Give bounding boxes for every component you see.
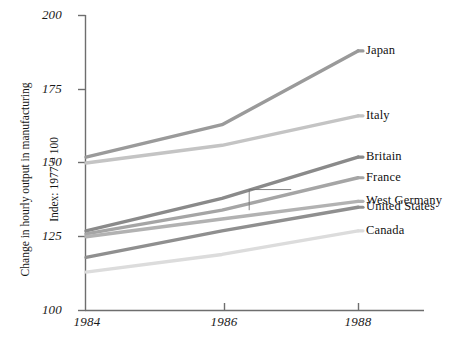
series-label-canada: Canada (366, 223, 404, 238)
y-axis-title: Change in hourly output in manufacturing… (3, 59, 62, 299)
series-layer (86, 51, 358, 272)
y-tick-label-100: 100 (22, 302, 62, 318)
x-tick-label-1984: 1984 (57, 314, 117, 330)
x-axis-ticks (225, 303, 359, 311)
series-line-canada (86, 231, 358, 272)
series-label-united-states: United States (366, 199, 435, 214)
y-axis-title-line2: Index: 1977 = 100 (48, 137, 60, 222)
leader-lines-layer (358, 51, 363, 231)
y-axis-title-line1: Change in hourly output in manufacturing (18, 83, 30, 277)
series-label-italy: Italy (366, 108, 390, 123)
x-tick-label-1986: 1986 (194, 314, 254, 330)
y-tick-label-200: 200 (22, 7, 62, 23)
line-chart: 200 175 150 125 100 1984 1986 1988 Chang… (0, 0, 450, 344)
series-line-japan (86, 51, 358, 157)
series-label-japan: Japan (366, 43, 395, 58)
series-label-france: France (366, 170, 401, 185)
x-tick-label-1988: 1988 (328, 314, 388, 330)
series-label-britain: Britain (366, 149, 402, 164)
